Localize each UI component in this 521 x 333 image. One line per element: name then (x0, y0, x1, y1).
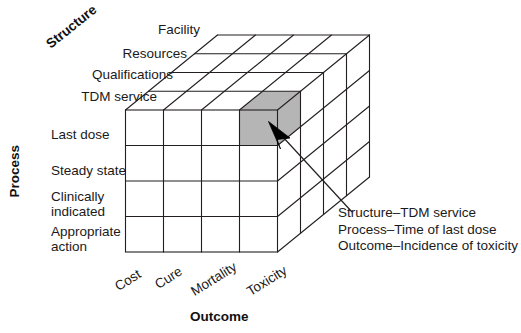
figure-canvas: Structure Facility Resources Qualificati… (0, 0, 521, 333)
process-label-clinically-indicated: Clinically indicated (51, 189, 131, 219)
axis-title-outcome: Outcome (190, 309, 249, 324)
structure-label-facility: Facility (25, 22, 200, 37)
callout-line-structure: Structure–TDM service (338, 205, 518, 222)
process-label-last-dose: Last dose (51, 127, 110, 142)
structure-label-qualifications: Qualifications (0, 67, 173, 82)
axis-title-process: Process (7, 145, 22, 198)
leader-line (282, 136, 352, 212)
callout-leader (269, 122, 353, 213)
process-label-steady-state: Steady state (51, 163, 126, 178)
structure-label-resources: Resources (12, 46, 187, 61)
callout-line-outcome: Outcome–Incidence of toxicity (338, 238, 518, 255)
structure-label-tdm-service: TDM service (0, 89, 157, 104)
callout-annotation: Structure–TDM service Process–Time of la… (338, 205, 518, 255)
process-label-appropriate-action: Appropriate action (51, 224, 131, 254)
callout-line-process: Process–Time of last dose (338, 222, 518, 239)
